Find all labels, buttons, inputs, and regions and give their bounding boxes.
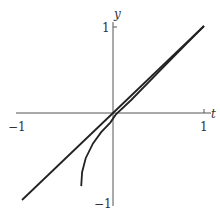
x-max-label: 1 <box>200 120 208 134</box>
y-min-label: −1 <box>94 197 112 211</box>
y-max-label: 1 <box>102 21 110 35</box>
x-min-label: −1 <box>8 120 26 134</box>
y-axis-label: y <box>113 7 121 21</box>
x-axis-label: t <box>211 107 216 121</box>
chart: y t −1 1 1 −1 <box>0 0 220 216</box>
series-curve <box>81 26 204 186</box>
